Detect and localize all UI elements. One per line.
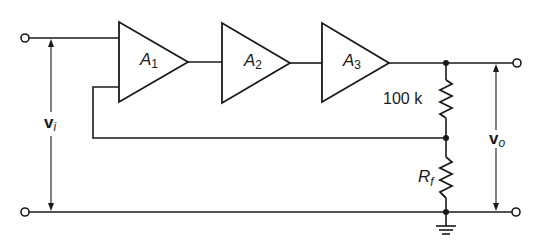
- input-terminal-top: [21, 34, 29, 42]
- amplifier-a1-label: A1: [140, 50, 158, 71]
- resistor-100k-label: 100 k: [383, 90, 422, 108]
- resistor-rf-label: Rf: [418, 167, 434, 189]
- output-terminal-bottom: [512, 208, 520, 216]
- ground-icon: [436, 226, 456, 234]
- amplifier-a3-label: A3: [343, 51, 361, 72]
- junction-output: [443, 60, 449, 66]
- junction-feedback: [443, 135, 449, 141]
- output-voltage-label: vo: [489, 129, 505, 150]
- junction-ground: [443, 209, 449, 215]
- input-terminal-bottom: [21, 208, 29, 216]
- amplifier-a2-label: A2: [244, 51, 262, 72]
- circuit-diagram: A1 A2 A3 100 k Rf vi vo: [0, 0, 543, 246]
- input-voltage-label: vi: [44, 113, 56, 134]
- output-terminal-top: [513, 59, 521, 67]
- resistor-rf: [440, 157, 452, 198]
- schematic-drawing: [0, 0, 543, 246]
- resistor-100k: [440, 80, 452, 118]
